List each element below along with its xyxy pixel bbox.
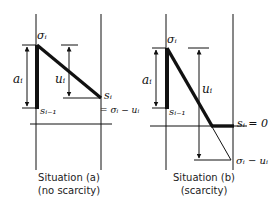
label-s-equation: = σᵢ − uᵢ	[100, 105, 139, 115]
release-line-extension	[211, 125, 231, 160]
label-s: sᵢ	[104, 89, 112, 102]
label-s-prev: sᵢ₋₁	[169, 106, 185, 117]
label-s-zero: sᵢ = 0	[237, 117, 268, 130]
label-u: uᵢ	[55, 72, 66, 86]
panel-b: σᵢ aᵢ uᵢ sᵢ₋₁ sᵢ = 0 σᵢ − uᵢ Situation (…	[142, 14, 268, 196]
caption-line-1: Situation (a)	[38, 172, 100, 183]
caption-line-2: (scarcity)	[181, 185, 228, 196]
label-sigma-minus-u: σᵢ − uᵢ	[236, 155, 268, 166]
caption-line-2: (no scarcity)	[38, 185, 100, 196]
scarcity-diagram: σᵢ aᵢ uᵢ sᵢ₋₁ sᵢ = σᵢ − uᵢ Situation (a)…	[0, 0, 278, 207]
label-sigma: σᵢ	[37, 29, 47, 42]
label-a: aᵢ	[142, 73, 152, 87]
caption-line-1: Situation (b)	[173, 172, 235, 183]
label-a: aᵢ	[13, 72, 23, 86]
label-s-prev: sᵢ₋₁	[40, 105, 56, 116]
panel-a: σᵢ aᵢ uᵢ sᵢ₋₁ sᵢ = σᵢ − uᵢ Situation (a)…	[13, 14, 139, 196]
label-u: uᵢ	[202, 82, 213, 96]
label-sigma: σᵢ	[167, 33, 177, 46]
